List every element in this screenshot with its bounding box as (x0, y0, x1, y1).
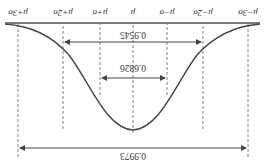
svg-text:μ: μ (130, 8, 136, 18)
tick-labels: μ−3σ μ−2σ μ−σ μ μ+σ μ+2σ μ+3σ (8, 8, 259, 18)
interval-two-sigma-label: 0.9545 (120, 30, 146, 40)
normal-distribution-diagram: 0.9973 0.6826 0.9545 μ−3σ μ−2σ μ−σ μ μ+σ… (0, 0, 265, 163)
svg-text:μ+σ: μ+σ (92, 8, 109, 18)
rotated-figure: 0.9973 0.6826 0.9545 μ−3σ μ−2σ μ−σ μ μ+σ… (0, 0, 265, 163)
svg-text:μ+2σ: μ+2σ (53, 8, 74, 18)
svg-text:μ+3σ: μ+3σ (8, 8, 29, 18)
svg-text:μ−3σ: μ−3σ (238, 8, 259, 18)
sigma-guides (18, 23, 248, 157)
svg-text:μ−σ: μ−σ (159, 8, 176, 18)
svg-text:μ−2σ: μ−2σ (193, 8, 214, 18)
interval-three-sigma-label: 0.9973 (120, 151, 146, 161)
interval-one-sigma-label: 0.6826 (120, 63, 146, 73)
